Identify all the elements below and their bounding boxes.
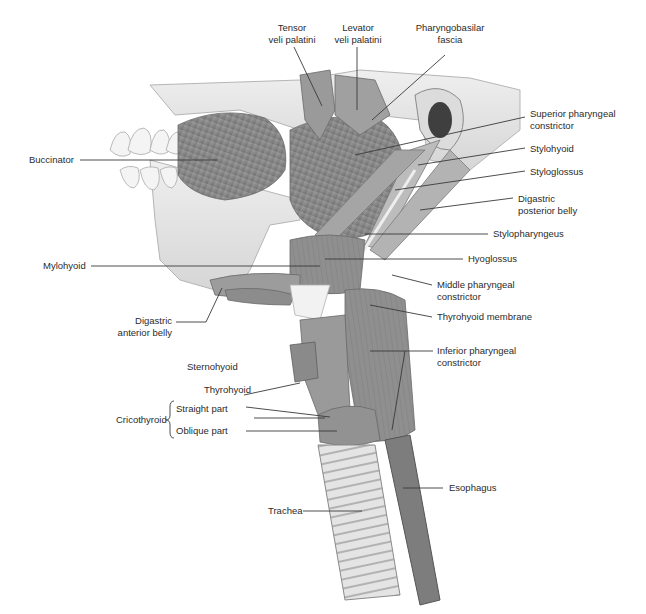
upper-teeth — [110, 128, 185, 156]
hyoid-tendon — [290, 285, 330, 320]
sternohyoid-muscle — [290, 342, 318, 382]
buccinator-muscle — [178, 113, 286, 200]
label-thyrohyoid: Thyrohyoid — [204, 384, 251, 396]
label-line: constrictor — [530, 120, 616, 132]
label-mylohyoid: Mylohyoid — [43, 260, 86, 272]
label-line: Levator — [318, 22, 398, 34]
label-styloglossus: Styloglossus — [530, 166, 583, 178]
trachea — [318, 445, 400, 600]
label-esophagus: Esophagus — [449, 482, 497, 494]
label-cricothyroid: Cricothyroid — [116, 414, 167, 426]
label-line: Superior pharyngeal — [530, 108, 616, 120]
label-hyoglossus: Hyoglossus — [468, 253, 517, 265]
external-acoustic-meatus — [428, 102, 452, 138]
label-line: constrictor — [437, 291, 515, 303]
label-cricothyroid-straight-part: Straight part — [176, 403, 228, 415]
label-levator-veli-palatini: Levator veli palatini — [318, 22, 398, 45]
label-line: veli palatini — [318, 34, 398, 46]
cricothyroid-muscle — [318, 406, 380, 446]
label-trachea: Trachea — [268, 505, 303, 517]
label-line: fascia — [400, 34, 500, 46]
label-digastric-posterior-belly: Digastric posterior belly — [518, 193, 577, 216]
label-sternohyoid: Sternohyoid — [187, 361, 238, 373]
label-pharyngobasilar-fascia: Pharyngobasilar fascia — [400, 22, 500, 45]
anatomy-figure: Tensor veli palatini Levator veli palati… — [0, 0, 646, 614]
label-line: Inferior pharyngeal — [437, 345, 516, 357]
label-inferior-pharyngeal-constrictor: Inferior pharyngeal constrictor — [437, 345, 516, 368]
anatomy-illustration — [0, 0, 646, 614]
label-stylohyoid: Stylohyoid — [530, 143, 574, 155]
label-cricothyroid-oblique-part: Oblique part — [176, 425, 228, 437]
label-line: Pharyngobasilar — [400, 22, 500, 34]
label-line: Middle pharyngeal — [437, 279, 515, 291]
label-thyrohyoid-membrane: Thyrohyoid membrane — [437, 311, 532, 323]
label-line: Digastric — [100, 315, 172, 327]
label-superior-pharyngeal-constrictor: Superior pharyngeal constrictor — [530, 108, 616, 131]
lower-teeth — [120, 166, 177, 190]
label-stylopharyngeus: Stylopharyngeus — [493, 228, 564, 240]
label-line: Digastric — [518, 193, 577, 205]
label-line: constrictor — [437, 357, 516, 369]
label-line: anterior belly — [100, 327, 172, 339]
label-line: posterior belly — [518, 205, 577, 217]
cricothyroid-brace — [166, 401, 174, 438]
label-middle-pharyngeal-constrictor: Middle pharyngeal constrictor — [437, 279, 515, 302]
label-digastric-anterior-belly: Digastric anterior belly — [100, 315, 172, 338]
label-buccinator: Buccinator — [29, 154, 74, 166]
